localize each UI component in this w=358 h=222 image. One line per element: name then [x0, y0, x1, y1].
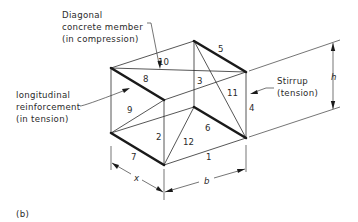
member-9-diagonal	[111, 100, 164, 133]
stirrup-label-line1: Stirrup	[277, 76, 308, 86]
member-numbers: 10 5 8 3 11 4 9 2 6 12 7 1	[127, 44, 254, 162]
member-number-4: 4	[249, 103, 254, 113]
member-6	[194, 107, 246, 138]
stirrup-label-line2: (tension)	[277, 88, 318, 98]
longitudinal-annotation: longitudinal reinforcement (in tension)	[16, 88, 130, 124]
member-number-3: 3	[197, 76, 202, 86]
h-extension-top	[249, 40, 340, 71]
member-number-1: 1	[206, 152, 211, 162]
stirrup-leader	[255, 88, 274, 92]
b-label: b	[204, 176, 210, 186]
h-arrow-top-icon	[331, 43, 335, 51]
member-number-11: 11	[227, 88, 238, 98]
panel-label: (b)	[16, 209, 29, 219]
diagonal-label-line2: concrete member	[62, 22, 143, 32]
h-extension-bottom	[249, 107, 340, 137]
longitudinal-label-line2: reinforcement	[16, 102, 81, 112]
member-8	[111, 68, 164, 100]
x-arrow-right-icon	[156, 186, 163, 192]
member-number-6: 6	[205, 123, 210, 133]
longitudinal-leader	[80, 91, 123, 106]
longitudinal-label-line3: (in tension)	[16, 114, 69, 124]
stirrup-arrow-icon	[250, 90, 258, 94]
h-label: h	[331, 72, 336, 82]
member-number-8: 8	[143, 74, 148, 84]
member-top-diagonal	[111, 68, 246, 72]
member-number-9: 9	[127, 105, 132, 115]
member-number-2: 2	[156, 132, 161, 142]
member-e-f	[111, 107, 194, 133]
diagonal-label-line3: (in compression)	[62, 34, 139, 44]
member-number-5: 5	[218, 44, 223, 54]
b-arrow-right-icon	[237, 169, 245, 173]
member-number-12: 12	[183, 137, 194, 147]
stirrup-annotation: Stirrup (tension)	[250, 76, 318, 98]
member-number-7: 7	[131, 152, 136, 162]
diagonal-annotation: Diagonal concrete member (in compression…	[62, 10, 162, 69]
x-arrow-left-icon	[112, 163, 119, 169]
thick-members	[111, 41, 246, 165]
b-arrow-left-icon	[165, 188, 173, 192]
space-truss-diagram: 10 5 8 3 11 4 9 2 6 12 7 1 h x b	[0, 0, 358, 222]
x-label: x	[133, 173, 140, 183]
diagonal-label-line1: Diagonal	[62, 10, 102, 20]
h-arrow-bottom-icon	[331, 101, 335, 109]
longitudinal-label-line1: longitudinal	[16, 90, 70, 100]
longitudinal-arrow-icon	[122, 88, 130, 93]
member-10-edge	[111, 41, 194, 68]
